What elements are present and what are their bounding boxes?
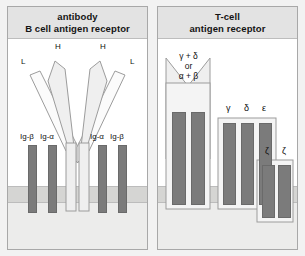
immunoreceptor-diagram: antibody B cell antigen receptor bbox=[0, 0, 305, 256]
panel-tcr-title-line1: T-cell bbox=[215, 11, 240, 23]
label-ig-beta-left: Ig-β bbox=[20, 132, 34, 141]
panel-tcr-title-line2: antigen receptor bbox=[189, 23, 265, 35]
panel-tcr-header: T-cell antigen receptor bbox=[158, 7, 297, 39]
label-heavy-chain-right: H bbox=[100, 42, 106, 51]
label-tcr-or: or bbox=[166, 61, 211, 71]
label-light-chain-right: L bbox=[130, 57, 134, 66]
heavy-chain-stem-left bbox=[66, 143, 76, 211]
ig-beta-chain-right bbox=[118, 145, 127, 213]
cd3-gamma-bar bbox=[223, 123, 236, 205]
label-cd3-delta: δ bbox=[244, 104, 249, 113]
panel-antibody: antibody B cell antigen receptor bbox=[7, 6, 148, 250]
panel-antibody-title-line1: antibody bbox=[57, 11, 97, 23]
ig-alpha-chain-left bbox=[48, 145, 57, 213]
label-tcr-alpha-beta: α + β bbox=[166, 71, 211, 81]
label-cd3-epsilon: ε bbox=[262, 104, 266, 113]
antibody-canvas: H H L L Ig-β Ig-α Ig-α Ig-β bbox=[8, 39, 147, 250]
zeta-bar-right bbox=[278, 165, 291, 218]
label-ig-alpha-left: Ig-α bbox=[40, 132, 54, 141]
tcr-canvas: γ + δ or α + β γ δ ε ζ ζ bbox=[158, 39, 297, 250]
label-ig-alpha-right: Ig-α bbox=[90, 132, 104, 141]
panel-tcr: T-cell antigen receptor bbox=[157, 6, 298, 250]
tcr-chain-bar-left bbox=[172, 112, 186, 205]
label-zeta-left: ζ bbox=[265, 147, 269, 156]
ig-beta-chain-left bbox=[28, 145, 37, 213]
heavy-chain-stem-right bbox=[79, 143, 89, 211]
label-tcr-gamma-delta: γ + δ bbox=[166, 51, 211, 61]
label-tcr-chain-composition: γ + δ or α + β bbox=[166, 51, 211, 81]
panel-antibody-title-line2: B cell antigen receptor bbox=[25, 23, 130, 35]
label-zeta-right: ζ bbox=[282, 147, 286, 156]
label-cd3-gamma: γ bbox=[226, 104, 231, 113]
label-ig-beta-right: Ig-β bbox=[110, 132, 124, 141]
panel-antibody-header: antibody B cell antigen receptor bbox=[8, 7, 147, 39]
label-light-chain-left: L bbox=[21, 57, 25, 66]
ig-alpha-chain-right bbox=[98, 145, 107, 213]
tcr-chain-bar-right bbox=[191, 112, 205, 205]
label-heavy-chain-left: H bbox=[55, 42, 61, 51]
cd3-delta-bar bbox=[241, 123, 254, 205]
zeta-bar-left bbox=[262, 165, 275, 218]
